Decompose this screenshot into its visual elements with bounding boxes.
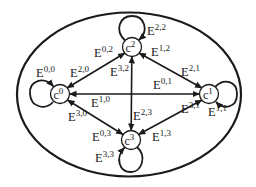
edge-c2-c3 <box>131 57 132 131</box>
label-E31: E3,1 <box>181 100 200 116</box>
label-E02: E0,2 <box>94 44 113 60</box>
node-c1: c1 <box>200 85 219 104</box>
node-c1-sup: 1 <box>208 86 213 96</box>
self-loop-c2 <box>119 16 144 41</box>
label-E33: E3,3 <box>95 149 114 165</box>
state-transition-diagram: c0 c1 c2 c3 E0,0 E2,0 <box>0 0 256 187</box>
node-c3: c3 <box>122 131 141 150</box>
label-E03: E0,3 <box>92 128 111 144</box>
label-E22: E2,2 <box>147 22 166 38</box>
node-c0: c0 <box>51 85 70 104</box>
label-E11: E1,1 <box>208 103 227 119</box>
label-E30: E3,0 <box>68 108 87 124</box>
label-E32: E3,2 <box>110 63 129 79</box>
node-c3-sup: 3 <box>130 132 135 142</box>
node-c0-sup: 0 <box>59 86 64 96</box>
label-E01: E0,1 <box>153 76 172 92</box>
label-E20: E2,0 <box>70 64 89 80</box>
node-c2-sup: 2 <box>131 39 136 49</box>
self-loop-c3 <box>119 147 142 172</box>
label-E12: E1,2 <box>151 43 170 59</box>
label-E00: E0,0 <box>36 64 55 80</box>
label-E10: E1,0 <box>91 94 110 110</box>
label-E23: E2,3 <box>133 107 152 123</box>
label-E21: E2,1 <box>181 63 200 79</box>
node-c2: c2 <box>123 38 142 57</box>
label-E13: E1,3 <box>152 128 171 144</box>
